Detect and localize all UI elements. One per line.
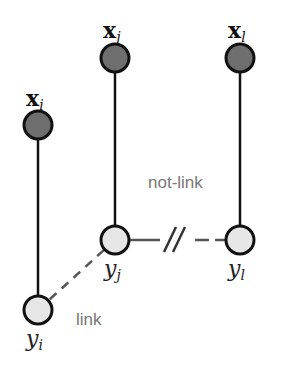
node-x-j	[101, 44, 129, 72]
label-x-i: xi	[26, 85, 44, 113]
label-x-l: xl	[228, 17, 246, 45]
label-y-l: yl	[227, 256, 245, 283]
label-y-i: yi	[25, 326, 43, 353]
graphical-model-diagram: xi xj xl yj yl yi not-link link	[0, 0, 283, 376]
edge-label-link: link	[76, 310, 102, 329]
node-y-i	[24, 296, 52, 324]
node-y-l	[226, 226, 254, 254]
label-x-j: xj	[103, 17, 121, 45]
edge-label-not-link: not-link	[148, 173, 203, 192]
node-x-l	[226, 44, 254, 72]
label-y-j: yj	[103, 256, 121, 283]
node-x-i	[24, 111, 52, 139]
node-y-j	[101, 226, 129, 254]
